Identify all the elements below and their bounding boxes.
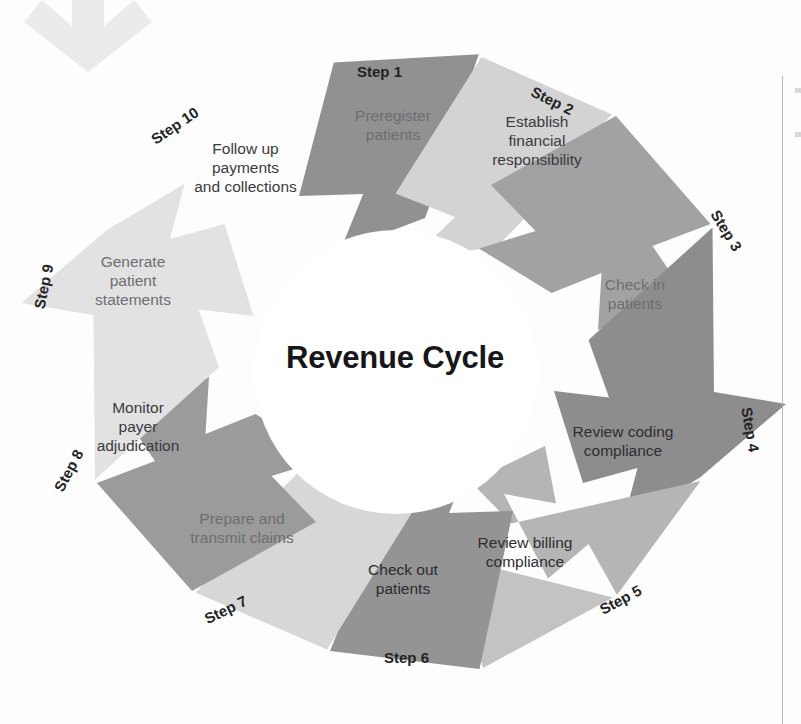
revenue-cycle-diagram: Revenue Cycle Preregister patients Estab… bbox=[0, 0, 801, 724]
page-edge-rule bbox=[782, 76, 783, 724]
edge-mark-lower bbox=[795, 132, 801, 137]
down-arrow-decoration bbox=[24, 0, 152, 72]
step-label-1: Step 1 bbox=[357, 63, 402, 80]
page-title: Revenue Cycle bbox=[0, 340, 790, 376]
edge-mark-upper bbox=[795, 88, 801, 93]
step-label-6: Step 6 bbox=[384, 649, 429, 666]
